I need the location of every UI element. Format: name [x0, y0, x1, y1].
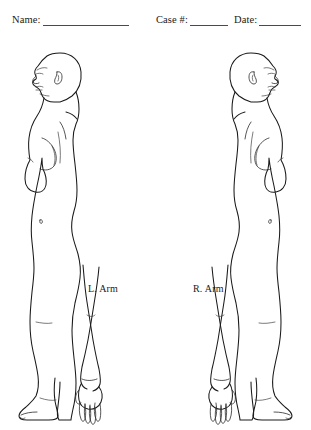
left-figure-foot-line	[21, 412, 37, 415]
right-arm-elbow-line	[216, 315, 224, 317]
right-figure-lips-line	[268, 86, 275, 87]
right-lateral-figure	[209, 53, 292, 424]
name-field-label: Name:	[12, 14, 41, 26]
left-figure-navel-mark	[40, 220, 43, 224]
right-figure-toes-line	[286, 417, 291, 419]
left-figure-knee-line	[36, 322, 52, 323]
left-figure-lips-line	[36, 86, 43, 87]
left-arm-label: L. Arm	[88, 283, 118, 295]
left-lateral-figure	[19, 53, 102, 424]
name-field-rule[interactable]	[43, 14, 129, 26]
left-figure-breast-crease-line	[52, 146, 55, 165]
left-figure-ear-inner-line	[58, 75, 59, 81]
left-figure-chin-line	[40, 94, 49, 96]
left-figure-toes-line	[20, 417, 25, 419]
left-figure-eye-line	[36, 73, 43, 74]
right-figure-breast-crease-line	[256, 146, 259, 165]
right-figure-ear-outline	[249, 72, 256, 84]
right-figure-brow-line	[264, 68, 274, 70]
body-diagram-canvas: L. Arm R. Arm	[0, 34, 311, 430]
left-arm-elbow-line	[87, 315, 95, 317]
left-figure-back-contour	[57, 92, 80, 420]
right-figure-back-contour	[231, 92, 254, 420]
left-arm-wrist-line	[82, 379, 97, 381]
form-header: Name: Case #: Date:	[0, 0, 311, 36]
right-figure-armpit-line	[245, 122, 251, 139]
right-figure-chin-line	[262, 94, 271, 96]
right-figure-shoulder-line	[234, 112, 245, 119]
right-figure-eye-line	[268, 73, 275, 74]
left-figure-brow-line	[37, 68, 47, 70]
right-figure-torso-line	[251, 132, 253, 163]
right-figure-ear-inner-line	[252, 75, 253, 81]
left-figure-ankle-line	[40, 398, 56, 400]
right-figure-head-outline	[230, 53, 278, 102]
case-number-field-label: Case #:	[156, 14, 188, 26]
right-arm-wrist-line	[214, 379, 229, 381]
name-field-group[interactable]: Name:	[12, 14, 129, 26]
left-figure-shoulder-line	[66, 112, 77, 119]
right-figure-foot-line	[274, 412, 290, 415]
right-figure-knee-line	[259, 322, 275, 323]
date-field-rule[interactable]	[259, 14, 301, 26]
right-figure-ankle-line	[255, 398, 271, 400]
date-field-group[interactable]: Date:	[234, 14, 301, 26]
right-arm-label: R. Arm	[193, 283, 224, 295]
case-number-field-rule[interactable]	[190, 14, 228, 26]
left-figure-armpit-line	[60, 122, 66, 139]
left-figure-head-outline	[33, 53, 81, 102]
case-number-field-group[interactable]: Case #:	[156, 14, 228, 26]
body-diagram-svg	[0, 34, 311, 430]
date-field-label: Date:	[234, 14, 257, 26]
right-figure-navel-mark	[269, 220, 272, 224]
left-figure-ear-outline	[55, 72, 62, 84]
left-figure-torso-line	[58, 132, 60, 163]
